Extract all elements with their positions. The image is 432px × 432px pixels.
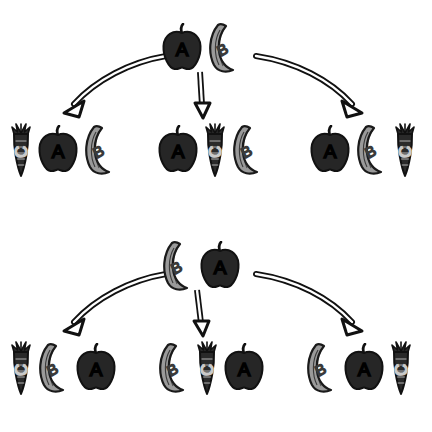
banana-icon: B (230, 124, 266, 176)
option-3[interactable]: B A C (304, 340, 414, 396)
svg-text:C: C (199, 364, 216, 376)
banana-icon: B (82, 124, 118, 176)
banana-icon: B (304, 342, 340, 394)
apple-icon: A (222, 343, 266, 393)
option-1[interactable]: C A B (8, 122, 118, 178)
svg-text:A: A (172, 141, 185, 162)
carrot-icon: C (194, 340, 220, 396)
banana-icon: B (206, 22, 242, 74)
svg-text:A: A (90, 359, 103, 380)
puzzle-section-2: B A C B (0, 216, 432, 432)
svg-text:C: C (207, 146, 224, 158)
option-2[interactable]: B C A (156, 340, 266, 396)
svg-text:A: A (238, 359, 251, 380)
curved-arrow-right-icon (256, 56, 362, 117)
apple-icon: A (308, 125, 352, 175)
source-sequence-1: A B (160, 22, 242, 74)
banana-icon: B (156, 342, 192, 394)
banana-icon: B (160, 240, 196, 292)
svg-text:C: C (393, 364, 410, 376)
svg-text:A: A (214, 257, 227, 278)
banana-icon: B (36, 342, 72, 394)
straight-arrow-down-icon (195, 72, 210, 118)
carrot-icon: C (392, 122, 418, 178)
svg-text:C: C (13, 364, 30, 376)
curved-arrow-right-icon (256, 274, 362, 335)
svg-text:A: A (52, 141, 65, 162)
apple-icon: A (74, 343, 118, 393)
puzzle-canvas: A B C A (0, 0, 432, 432)
option-3[interactable]: A B C (308, 122, 418, 178)
svg-text:C: C (13, 146, 30, 158)
source-sequence-2: B A (160, 240, 242, 292)
apple-icon: A (342, 343, 386, 393)
apple-icon: A (198, 241, 242, 291)
curved-arrow-left-icon (64, 274, 166, 335)
apple-icon: A (36, 125, 80, 175)
option-2[interactable]: A C B (156, 122, 266, 178)
svg-text:A: A (324, 141, 337, 162)
apple-icon: A (160, 23, 204, 73)
straight-arrow-down-icon (194, 290, 209, 336)
curved-arrow-left-icon (64, 56, 166, 117)
option-1[interactable]: C B A (8, 340, 118, 396)
carrot-icon: C (8, 122, 34, 178)
svg-text:A: A (176, 39, 189, 60)
apple-icon: A (156, 125, 200, 175)
carrot-icon: C (202, 122, 228, 178)
carrot-icon: C (388, 340, 414, 396)
puzzle-section-1: A B C A (0, 0, 432, 216)
svg-text:A: A (358, 359, 371, 380)
carrot-icon: C (8, 340, 34, 396)
banana-icon: B (354, 124, 390, 176)
svg-text:C: C (397, 146, 414, 158)
